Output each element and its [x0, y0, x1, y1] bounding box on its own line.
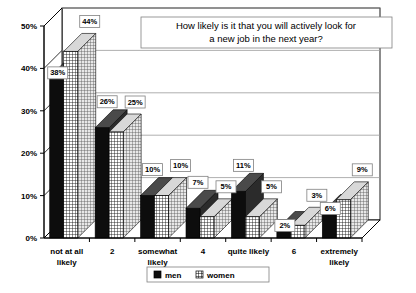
- legend-label-men: men: [165, 271, 182, 280]
- chart-title: How likely is it that you will actively …: [141, 17, 392, 48]
- data-label-women-4: 5%: [266, 182, 277, 191]
- data-label-women-2: 10%: [173, 161, 188, 170]
- bar-front-face: [200, 217, 214, 238]
- data-label-men-1: 26%: [100, 97, 115, 106]
- x-tick-label: 2: [110, 247, 115, 256]
- bar-front-face: [245, 217, 259, 238]
- legend-swatch-men: [154, 271, 161, 278]
- title-line-2: a new job in the next year?: [209, 33, 323, 44]
- legend-swatch-women: [196, 271, 203, 278]
- x-tick-label: extremely: [321, 247, 359, 256]
- x-tick-label: not at all: [50, 247, 83, 256]
- bar-front-face: [50, 77, 64, 238]
- bar-front-face: [95, 128, 109, 238]
- data-label-men-4: 11%: [236, 161, 251, 170]
- bar-front-face: [109, 132, 123, 238]
- title-line-1: How likely is it that you will actively …: [176, 20, 356, 31]
- bar-front-face: [155, 196, 169, 238]
- data-label-women-1: 25%: [128, 98, 143, 107]
- y-tick-label: 50%: [21, 22, 37, 31]
- y-tick-label: 30%: [21, 107, 37, 116]
- legend[interactable]: men women: [147, 267, 269, 282]
- y-tick-label: 10%: [21, 192, 37, 201]
- data-label-women-3: 5%: [221, 182, 232, 191]
- data-label-women-5: 3%: [311, 191, 322, 200]
- bar-front-face: [141, 196, 155, 238]
- data-label-women-6: 9%: [357, 165, 368, 174]
- data-label-men-3: 7%: [193, 178, 204, 187]
- data-label-men-5: 2%: [279, 221, 290, 230]
- bar-front-face: [64, 51, 78, 238]
- y-tick-label: 20%: [21, 149, 37, 158]
- bar-front-face: [186, 208, 200, 238]
- data-label-women-0: 44%: [82, 17, 97, 26]
- bar-side-face: [78, 33, 96, 238]
- data-label-men-0: 38%: [50, 68, 65, 77]
- legend-label-women: women: [206, 271, 235, 280]
- bar-chart: 38%44%26%25%10%10%7%5%11%5%2%3%6%9% 0%10…: [0, 0, 416, 293]
- chart-container: 38%44%26%25%10%10%7%5%11%5%2%3%6%9% 0%10…: [0, 0, 416, 293]
- bar-front-face: [231, 191, 245, 238]
- data-label-men-6: 6%: [325, 204, 336, 213]
- bar-women-0: [64, 33, 96, 238]
- y-tick-label: 40%: [21, 64, 37, 73]
- data-label-men-2: 10%: [145, 165, 160, 174]
- bar-side-face: [123, 114, 141, 238]
- bar-women-1: [109, 114, 141, 238]
- x-tick-label: somewhat: [138, 247, 177, 256]
- x-tick-label: likely: [148, 258, 169, 267]
- y-tick-label: 0%: [25, 234, 37, 243]
- x-tick-label: likely: [329, 258, 350, 267]
- x-tick-label: likely: [57, 258, 78, 267]
- x-tick-label: quite likely: [228, 247, 270, 256]
- x-tick-label: 6: [292, 247, 297, 256]
- x-tick-label: 4: [201, 247, 206, 256]
- bar-front-face: [322, 213, 336, 238]
